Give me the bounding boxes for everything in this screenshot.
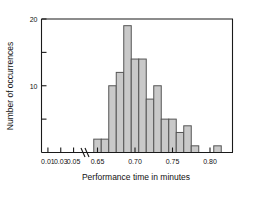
y-tick-label: 10: [30, 83, 38, 90]
histogram-bar: [146, 99, 154, 152]
x-axis-title: Performance time in minutes: [82, 172, 190, 182]
histogram-bar: [139, 59, 147, 152]
x-tick-label: 0.03: [54, 158, 68, 165]
histogram-bar: [176, 132, 184, 152]
histogram-bar: [191, 146, 199, 153]
x-tick-label: 0.75: [166, 158, 180, 165]
histogram-bar: [161, 119, 169, 152]
x-tick-label: 0.80: [203, 158, 217, 165]
histogram-bar: [154, 86, 162, 153]
x-tick-label: 0.65: [91, 158, 105, 165]
histogram-bar: [101, 139, 109, 152]
y-axis-title: Number of occurrences: [5, 42, 15, 130]
histogram-bar: [116, 72, 124, 152]
x-tick-label: 0.05: [67, 158, 81, 165]
y-tick-label: 20: [30, 16, 38, 23]
histogram-bar: [109, 86, 117, 153]
histogram-bar: [214, 146, 222, 153]
histogram-bar: [184, 126, 192, 153]
histogram-figure: 2010 0.010.030.050.650.700.750.80 Perfor…: [0, 0, 254, 200]
histogram-bar: [124, 26, 132, 153]
chart-canvas: 2010 0.010.030.050.650.700.750.80 Perfor…: [0, 0, 254, 200]
histogram-bar: [131, 59, 139, 152]
x-tick-label: 0.01: [41, 158, 55, 165]
x-tick-label: 0.70: [128, 158, 142, 165]
